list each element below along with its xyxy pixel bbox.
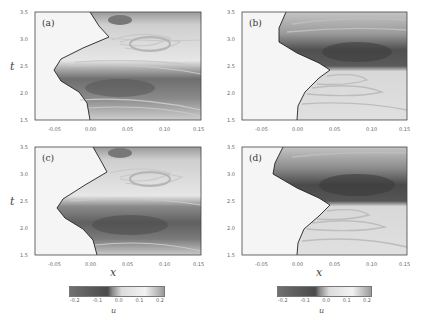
contour-plot-c: (c) 3.53.02.52.01.5 -0.050.000.050.100.1… bbox=[0, 135, 211, 275]
svg-text:0.10: 0.10 bbox=[159, 126, 170, 132]
svg-text:0.00: 0.00 bbox=[85, 126, 96, 132]
svg-text:0.00: 0.00 bbox=[85, 261, 96, 267]
svg-text:2.0: 2.0 bbox=[227, 90, 235, 96]
colorbar-left bbox=[69, 286, 165, 297]
panel-a: (a) 3.53.02.52.01.5 -0.050.000.050.100.1… bbox=[0, 0, 211, 140]
y-ticks-d: 3.53.02.52.01.5 bbox=[227, 144, 235, 258]
panel-d: (d) 3.53.02.52.01.5 -0.050.000.050.100.1… bbox=[207, 135, 422, 275]
svg-text:2.0: 2.0 bbox=[227, 225, 235, 231]
svg-text:2.0: 2.0 bbox=[20, 225, 28, 231]
svg-text:1.5: 1.5 bbox=[227, 252, 235, 258]
svg-text:0.10: 0.10 bbox=[366, 261, 377, 267]
x-axis-label-d: x bbox=[316, 266, 322, 279]
y-ticks-c: 3.53.02.52.01.5 bbox=[20, 144, 28, 258]
svg-text:0.05: 0.05 bbox=[329, 126, 340, 132]
panel-c: (c) 3.53.02.52.01.5 -0.050.000.050.100.1… bbox=[0, 135, 211, 275]
colorbar-ticks-right: -0.2 -0.1 0.0 0.1 0.2 bbox=[278, 297, 371, 303]
y-ticks-a: 3.53.02.52.01.5 bbox=[20, 9, 28, 123]
svg-text:0.00: 0.00 bbox=[292, 126, 303, 132]
colorbar-right bbox=[277, 286, 372, 297]
x-ticks-c: -0.050.000.050.100.15 bbox=[48, 261, 204, 267]
panel-b: (b) 3.53.02.52.01.5 -0.050.000.050.100.1… bbox=[207, 0, 422, 140]
svg-text:3.5: 3.5 bbox=[227, 144, 235, 150]
svg-text:0.05: 0.05 bbox=[122, 126, 133, 132]
t-axis-label-a: t bbox=[10, 60, 14, 73]
svg-text:0.15: 0.15 bbox=[399, 126, 410, 132]
svg-text:2.5: 2.5 bbox=[227, 198, 235, 204]
svg-text:3.5: 3.5 bbox=[20, 144, 28, 150]
svg-text:-0.05: -0.05 bbox=[255, 126, 268, 132]
svg-text:2.0: 2.0 bbox=[20, 90, 28, 96]
svg-text:0.15: 0.15 bbox=[399, 261, 410, 267]
svg-text:2.5: 2.5 bbox=[227, 63, 235, 69]
panel-label-b: (b) bbox=[249, 18, 262, 28]
colorbar-ticks-left: -0.2 -0.1 0.0 0.1 0.2 bbox=[70, 297, 164, 303]
svg-text:-0.05: -0.05 bbox=[255, 261, 268, 267]
panel-label-d: (d) bbox=[249, 153, 262, 163]
svg-text:-0.05: -0.05 bbox=[48, 126, 61, 132]
svg-text:1.5: 1.5 bbox=[227, 117, 235, 123]
svg-text:0.05: 0.05 bbox=[329, 261, 340, 267]
contour-plot-d: (d) 3.53.02.52.01.5 -0.050.000.050.100.1… bbox=[207, 135, 422, 275]
svg-text:3.0: 3.0 bbox=[20, 36, 28, 42]
x-axis-label-c: x bbox=[110, 266, 116, 279]
svg-text:1.5: 1.5 bbox=[20, 117, 28, 123]
svg-text:0.00: 0.00 bbox=[292, 261, 303, 267]
svg-text:3.0: 3.0 bbox=[227, 36, 235, 42]
svg-text:0.10: 0.10 bbox=[159, 261, 170, 267]
contour-plot-b: (b) 3.53.02.52.01.5 -0.050.000.050.100.1… bbox=[207, 0, 422, 140]
colorbar-label-right: u bbox=[319, 306, 324, 315]
svg-text:2.5: 2.5 bbox=[20, 63, 28, 69]
panel-label-a: (a) bbox=[42, 18, 54, 28]
y-ticks-b: 3.53.02.52.01.5 bbox=[227, 9, 235, 123]
x-ticks-d: -0.050.000.050.100.15 bbox=[255, 261, 410, 267]
svg-text:3.5: 3.5 bbox=[227, 9, 235, 15]
svg-text:2.5: 2.5 bbox=[20, 198, 28, 204]
svg-text:-0.05: -0.05 bbox=[48, 261, 61, 267]
svg-text:3.0: 3.0 bbox=[227, 171, 235, 177]
svg-text:0.15: 0.15 bbox=[193, 126, 204, 132]
x-ticks-a: -0.050.000.050.100.15 bbox=[48, 126, 204, 132]
svg-text:3.5: 3.5 bbox=[20, 9, 28, 15]
svg-text:1.5: 1.5 bbox=[20, 252, 28, 258]
x-ticks-b: -0.050.000.050.100.15 bbox=[255, 126, 410, 132]
panel-label-c: (c) bbox=[42, 153, 54, 163]
svg-text:0.10: 0.10 bbox=[366, 126, 377, 132]
svg-text:0.05: 0.05 bbox=[122, 261, 133, 267]
t-axis-label-c: t bbox=[10, 195, 14, 208]
colorbar-label-left: u bbox=[111, 306, 116, 315]
svg-text:0.15: 0.15 bbox=[193, 261, 204, 267]
contour-plot-a: (a) 3.53.02.52.01.5 -0.050.000.050.100.1… bbox=[0, 0, 211, 140]
svg-text:3.0: 3.0 bbox=[20, 171, 28, 177]
